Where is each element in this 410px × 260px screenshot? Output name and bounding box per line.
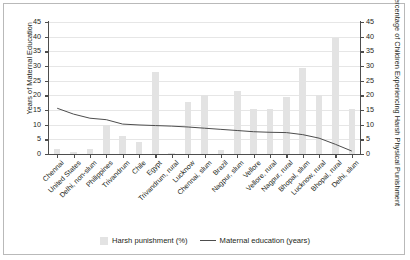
- x-tick: [319, 154, 320, 158]
- y2-tick: [360, 154, 364, 155]
- y2-tick-label: 35: [366, 47, 382, 55]
- y2-tick: [360, 66, 364, 67]
- x-tick: [303, 154, 304, 158]
- y-tick: [45, 154, 49, 155]
- x-tick: [57, 154, 58, 158]
- x-tick: [221, 154, 222, 158]
- y2-tick-label: 40: [366, 33, 382, 41]
- y-tick: [45, 66, 49, 67]
- x-tick: [188, 154, 189, 158]
- legend-item-harsh-punishment: Harsh punishment (%): [100, 236, 188, 245]
- y-tick: [45, 110, 49, 111]
- y-tick: [45, 51, 49, 52]
- x-tick: [90, 154, 91, 158]
- legend-swatch-icon: [100, 237, 108, 245]
- y-axis-left-title: Years of Maternal Education: [26, 0, 35, 143]
- y2-tick: [360, 110, 364, 111]
- y2-tick: [360, 51, 364, 52]
- y2-tick: [360, 139, 364, 140]
- x-tick: [155, 154, 156, 158]
- y2-tick: [360, 125, 364, 126]
- y-axis-right-title: Percentage of Children Experiencing Hars…: [393, 0, 402, 143]
- legend-label: Harsh punishment (%): [112, 236, 188, 245]
- x-tick: [139, 154, 140, 158]
- x-tick: [335, 154, 336, 158]
- y2-tick-label: 30: [366, 62, 382, 70]
- y2-tick-label: 45: [366, 18, 382, 26]
- y-tick: [45, 81, 49, 82]
- y-axis-left: [48, 21, 49, 155]
- y-tick: [45, 37, 49, 38]
- y-tick: [45, 95, 49, 96]
- y-tick-label: 0: [25, 150, 41, 158]
- y2-tick-label: 25: [366, 77, 382, 85]
- legend-item-maternal-education: Maternal education (years): [200, 236, 310, 245]
- y2-tick: [360, 37, 364, 38]
- x-tick: [237, 154, 238, 158]
- x-tick: [106, 154, 107, 158]
- y2-tick: [360, 95, 364, 96]
- legend-line-icon: [200, 240, 216, 241]
- y2-tick: [360, 22, 364, 23]
- x-tick: [74, 154, 75, 158]
- y-tick: [45, 125, 49, 126]
- x-tick: [270, 154, 271, 158]
- figure: 051015202530354045 051015202530354045 Ch…: [0, 0, 410, 260]
- y2-tick-label: 10: [366, 121, 382, 129]
- legend-label: Maternal education (years): [220, 236, 310, 245]
- line-series-maternal-education: [49, 22, 360, 154]
- figure-frame: 051015202530354045 051015202530354045 Ch…: [3, 3, 405, 255]
- y-tick: [45, 139, 49, 140]
- y-tick: [45, 22, 49, 23]
- chart-legend: Harsh punishment (%) Maternal education …: [4, 236, 406, 245]
- x-tick: [205, 154, 206, 158]
- x-tick: [123, 154, 124, 158]
- y2-tick-label: 5: [366, 135, 382, 143]
- x-tick: [286, 154, 287, 158]
- y2-tick-label: 15: [366, 106, 382, 114]
- y-axis-right: [360, 21, 361, 155]
- y2-tick-label: 0: [366, 150, 382, 158]
- x-tick: [254, 154, 255, 158]
- x-tick: [172, 154, 173, 158]
- y2-tick-label: 20: [366, 91, 382, 99]
- x-tick: [352, 154, 353, 158]
- y2-tick: [360, 81, 364, 82]
